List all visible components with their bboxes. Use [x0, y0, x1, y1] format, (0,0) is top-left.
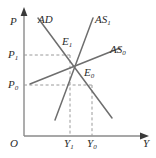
ad-as-diagram: P Y O P1 P0 Y1 Y0 AD AS1 AS0 E1 E0 [0, 0, 156, 158]
equilibrium-label-e1-base: E [62, 35, 69, 47]
curve-label-ad-base: AD [38, 13, 53, 25]
equilibrium-label-e0-base: E [84, 66, 91, 78]
curve-label-as0-base: AS [110, 43, 122, 55]
x-tick-y0: Y0 [87, 138, 97, 149]
curve-label-as1-base: AS [95, 13, 107, 25]
price-axis [21, 7, 28, 136]
price-axis-arrowhead [21, 7, 28, 16]
curve-as0 [30, 48, 120, 84]
y-tick-p1-base: P [8, 48, 15, 60]
curve-label-as1-sub: 1 [107, 19, 111, 27]
equilibrium-label-e0-sub: 0 [91, 72, 95, 80]
curve-label-as0-sub: 0 [122, 49, 126, 57]
x-tick-y0-sub: 0 [93, 143, 97, 151]
curve-label-ad: AD [38, 14, 53, 25]
x-tick-y1-sub: 1 [70, 143, 74, 151]
equilibrium-label-e0: E0 [84, 67, 94, 78]
x-tick-y1: Y1 [64, 138, 74, 149]
y-tick-p0-base: P [8, 78, 15, 90]
guide-lines [24, 55, 92, 136]
y-tick-p1-sub: 1 [15, 54, 19, 62]
equilibrium-label-e1: E1 [62, 36, 72, 47]
equilibrium-label-e1-sub: 1 [69, 41, 73, 49]
curve-label-as1: AS1 [95, 14, 111, 25]
curve-label-as0: AS0 [110, 44, 126, 55]
y-tick-p0-sub: 0 [15, 84, 19, 92]
y-tick-p0: P0 [8, 79, 18, 90]
y-tick-p1: P1 [8, 49, 18, 60]
output-axis-label: Y [143, 138, 149, 149]
origin-label: O [10, 138, 18, 149]
diagram-canvas [0, 0, 156, 158]
price-axis-label: P [10, 16, 17, 27]
